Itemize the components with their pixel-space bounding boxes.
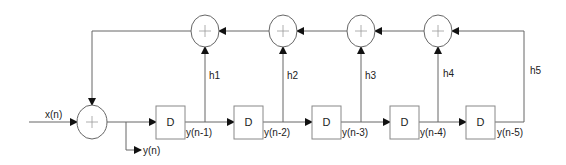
delay-label: D <box>245 116 253 128</box>
delay-output-label: y(n-2) <box>264 127 290 138</box>
coefficient-label: h1 <box>209 70 221 81</box>
coefficient-label: h2 <box>287 70 299 81</box>
coefficient-label: h5 <box>530 65 542 76</box>
output-label: y(n) <box>143 145 160 156</box>
delay-label: D <box>401 116 409 128</box>
coefficient-label: h4 <box>443 68 455 79</box>
delay-output-label: y(n-3) <box>342 127 368 138</box>
delay-label: D <box>477 116 485 128</box>
delay-output-label: y(n-5) <box>497 127 523 138</box>
feedback-arrow <box>92 31 191 105</box>
coefficient-label: h3 <box>365 70 377 81</box>
iir-filter-diagram: D D D D D x(n) y(n) y(n-1) y(n-2) y(n-3)… <box>0 0 566 165</box>
input-label: x(n) <box>45 109 62 120</box>
delay-output-label: y(n-4) <box>420 127 446 138</box>
delay-label: D <box>167 116 175 128</box>
delay-output-label: y(n-1) <box>186 127 212 138</box>
delay-label: D <box>323 116 331 128</box>
output-arrow <box>126 122 141 150</box>
